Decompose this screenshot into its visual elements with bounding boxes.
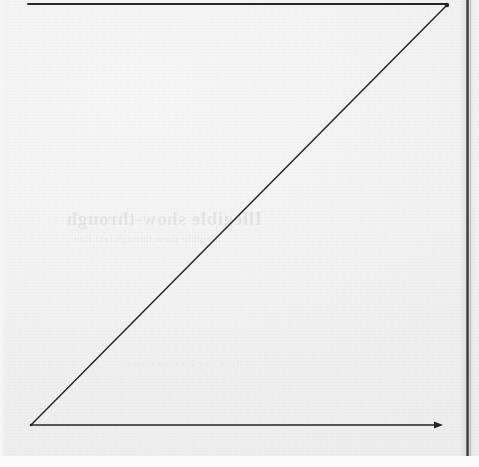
page-bottom-edge xyxy=(0,456,479,467)
diagonal-line xyxy=(31,5,447,425)
scanned-page: Illegible show-through illegible show th… xyxy=(0,0,479,467)
line-figure xyxy=(0,0,479,467)
figure-ink-group xyxy=(28,3,449,429)
binding-gutter-highlight xyxy=(470,0,471,456)
binding-gutter-line xyxy=(466,0,469,456)
axis-arrowhead-icon xyxy=(434,422,443,429)
origin-vertex-icon xyxy=(30,424,33,427)
apex-vertex-icon xyxy=(445,3,449,7)
